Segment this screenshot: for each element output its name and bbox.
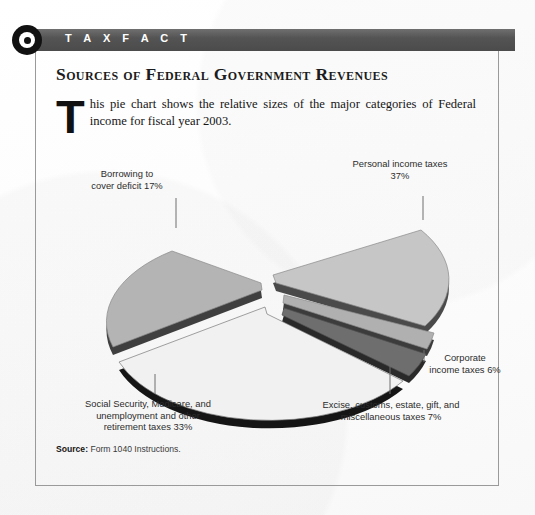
callout-corporate: Corporate income taxes 6% bbox=[410, 352, 520, 375]
tax-fact-banner: T A X F A C T bbox=[20, 29, 515, 51]
source-line: Source: Form 1040 Instructions. bbox=[56, 444, 181, 454]
source-text: Form 1040 Instructions. bbox=[88, 444, 181, 454]
intro-text: his pie chart shows the relative sizes o… bbox=[90, 97, 476, 128]
bullseye-dot bbox=[24, 37, 31, 44]
source-prefix: Source: bbox=[56, 444, 88, 454]
bullseye-ring bbox=[19, 32, 35, 48]
callout-personal: Personal income taxes 37% bbox=[330, 158, 470, 181]
page-title: Sources of Federal Government Revenues bbox=[56, 64, 388, 85]
document-page: T A X F A C T Sources of Federal Governm… bbox=[0, 0, 535, 515]
banner-label: T A X F A C T bbox=[65, 32, 192, 44]
callout-excise: Excise, customs, estate, gift, and misce… bbox=[305, 399, 477, 422]
callout-borrowing: Borrowing to cover deficit 17% bbox=[68, 168, 186, 191]
intro-paragraph: This pie chart shows the relative sizes … bbox=[56, 96, 476, 135]
drop-cap: T bbox=[56, 98, 85, 135]
bullseye-icon bbox=[12, 25, 42, 55]
callout-social: Social Security, Medicare, and unemploym… bbox=[48, 398, 248, 433]
